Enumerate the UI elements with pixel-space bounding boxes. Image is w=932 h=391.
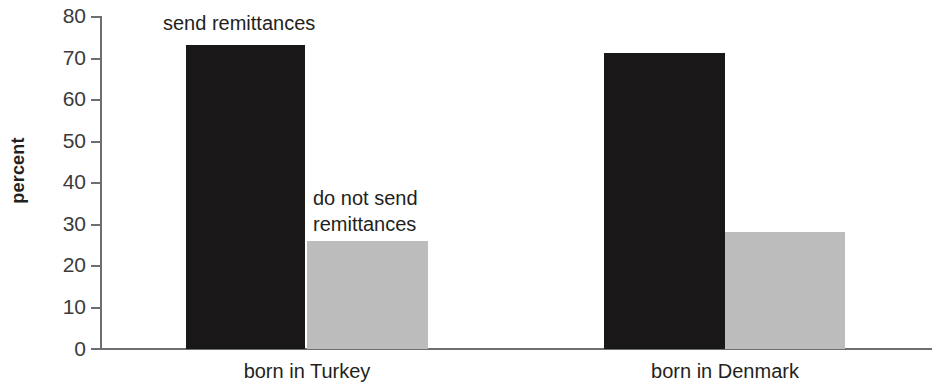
y-tick-mark-40 [91, 182, 101, 184]
y-tick-label-10: 10 [40, 296, 86, 317]
y-tick-label-30: 30 [40, 213, 86, 234]
y-tick-mark-0 [91, 348, 101, 350]
y-tick-label-70: 70 [40, 47, 86, 68]
y-tick-mark-50 [91, 141, 101, 143]
y-tick-mark-30 [91, 224, 101, 226]
y-tick-label-80: 80 [40, 5, 86, 26]
annotation-do-not-send-remittances: do not send remittances [313, 186, 418, 237]
bar-denmark-send-remittances [604, 53, 725, 349]
y-tick-mark-80 [91, 16, 101, 18]
y-tick-mark-60 [91, 99, 101, 101]
bar-turkey-send-remittances [186, 45, 305, 349]
y-tick-label-50: 50 [40, 130, 86, 151]
category-label-born-in-turkey: born in Turkey [187, 360, 427, 383]
y-tick-label-40: 40 [40, 171, 86, 192]
y-tick-mark-20 [91, 265, 101, 267]
y-tick-label-60: 60 [40, 88, 86, 109]
bar-turkey-do-not-send-remittances [307, 241, 428, 349]
annotation-send-remittances: send remittances [163, 11, 315, 37]
category-label-born-in-denmark: born in Denmark [605, 360, 845, 383]
y-tick-mark-10 [91, 307, 101, 309]
y-tick-label-20: 20 [40, 254, 86, 275]
bar-denmark-do-not-send-remittances [725, 232, 845, 349]
y-tick-mark-70 [91, 58, 101, 60]
y-axis-tick-labels: 80 70 60 50 40 30 20 10 0 [0, 0, 86, 391]
y-tick-label-0: 0 [40, 338, 86, 359]
bar-chart: percent 80 70 60 50 40 30 20 10 0 send r… [0, 0, 932, 391]
